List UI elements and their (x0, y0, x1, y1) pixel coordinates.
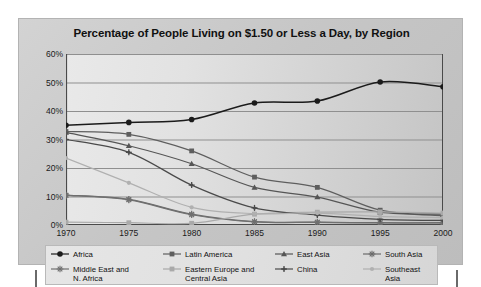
page-title: Percentage of People Living on $1.50 or … (19, 27, 464, 39)
chart-panel: Percentage of People Living on $1.50 or … (18, 18, 463, 265)
y-tick-label: 10% (35, 192, 63, 202)
legend-label: Eastern Europe and Central Asia (185, 264, 254, 284)
series-marker (66, 156, 68, 160)
x-tick-label: 1975 (119, 228, 138, 238)
series-marker (315, 185, 320, 190)
legend-marker (57, 266, 64, 273)
series-marker (66, 122, 69, 128)
series-marker (378, 209, 383, 214)
chart-series-canvas (66, 54, 443, 225)
registration-mark-right (456, 270, 458, 287)
legend-label: Southeast Asia (385, 264, 420, 284)
legend-label: Middle East and N. Africa (73, 264, 129, 284)
series-marker (377, 79, 383, 85)
x-axis-tick-labels: 1970197519801985199019952000 (66, 228, 443, 242)
series-marker (440, 84, 443, 90)
light-dot-marker (362, 264, 382, 274)
legend-item: South Asia (362, 249, 442, 264)
legend-label: China (297, 264, 317, 274)
legend-label: Latin America (185, 249, 232, 259)
x-tick-label: 1970 (57, 228, 76, 238)
legend-item: Africa (50, 249, 162, 264)
asterisk-marker (50, 264, 70, 274)
legend-item: Middle East and N. Africa (50, 264, 162, 286)
y-axis-tick-labels: 0%10%20%30%40%50%60% (33, 54, 63, 225)
plot-area (66, 54, 443, 225)
filled-triangle-marker (274, 249, 294, 259)
chart-page: Percentage of People Living on $1.50 or … (0, 0, 481, 287)
asterisk-marker (362, 249, 382, 259)
series-marker (190, 205, 194, 209)
filled-plus-marker (274, 264, 294, 274)
filled-square-marker (162, 249, 182, 259)
series-marker (441, 211, 443, 216)
series-marker (252, 212, 256, 216)
legend-item: Latin America (162, 249, 274, 264)
series-marker (126, 120, 132, 126)
series-marker (378, 214, 382, 218)
legend-marker (170, 252, 175, 257)
series-marker (127, 181, 131, 185)
filled-circle-marker (50, 249, 70, 259)
chart-legend: AfricaLatin AmericaEast AsiaSouth AsiaMi… (45, 245, 438, 285)
light-square-marker (162, 264, 182, 274)
registration-mark-left (35, 270, 37, 287)
series-marker (66, 220, 68, 225)
legend-marker (369, 251, 376, 258)
x-tick-label: 1985 (245, 228, 264, 238)
legend-item: Eastern Europe and Central Asia (162, 264, 274, 286)
legend-item: China (274, 264, 362, 286)
series-africa (66, 79, 443, 128)
legend-item: Southeast Asia (362, 264, 442, 286)
series-marker (189, 117, 195, 123)
y-tick-label: 30% (35, 135, 63, 145)
legend-label: East Asia (297, 249, 330, 259)
series-marker (315, 211, 319, 215)
legend-label: South Asia (385, 249, 422, 259)
series-marker (252, 175, 257, 180)
series-marker (315, 98, 321, 104)
series-marker (189, 221, 194, 225)
x-tick-label: 2000 (434, 228, 453, 238)
x-tick-label: 1980 (182, 228, 201, 238)
x-tick-label: 1990 (308, 228, 327, 238)
x-tick-label: 1995 (371, 228, 390, 238)
legend-marker (57, 251, 63, 257)
y-tick-label: 20% (35, 163, 63, 173)
series-marker (252, 205, 258, 211)
legend-marker (170, 267, 175, 272)
series-marker (252, 100, 258, 106)
series-marker (189, 149, 194, 154)
series-east-asia (66, 129, 443, 216)
legend-marker (370, 267, 374, 271)
series-marker (188, 211, 195, 218)
series-line (66, 132, 443, 214)
legend-item: East Asia (274, 249, 362, 264)
series-marker (126, 132, 131, 137)
y-tick-label: 40% (35, 106, 63, 116)
series-marker (66, 192, 69, 199)
y-tick-label: 50% (35, 78, 63, 88)
series-marker (126, 220, 131, 225)
legend-marker (281, 266, 287, 272)
series-marker (126, 149, 132, 155)
y-tick-label: 60% (35, 49, 63, 59)
series-marker (189, 182, 195, 188)
legend-label: Africa (73, 249, 93, 259)
series-marker (66, 137, 69, 143)
